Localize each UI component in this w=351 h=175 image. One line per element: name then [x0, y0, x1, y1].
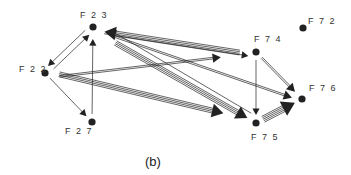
- node-dot: [88, 118, 95, 125]
- arrowhead-icon: [241, 51, 248, 58]
- node-label: F 7 5: [251, 132, 279, 142]
- arrowhead-icon: [212, 53, 221, 62]
- node-label: F 2 7: [65, 126, 93, 136]
- edge-f22-to-f23: [54, 35, 90, 69]
- node-dot: [252, 119, 259, 126]
- edge-f27-to-f23: [89, 39, 96, 114]
- arrowhead-icon: [252, 108, 259, 115]
- edge-strand: [263, 108, 286, 120]
- edge-f75-to-f76: [262, 102, 295, 123]
- node-f72: F 7 2: [299, 16, 336, 32]
- node-f74: F 7 4: [252, 34, 282, 56]
- node-f23: F 2 3: [80, 10, 108, 31]
- node-label: F 2 3: [80, 10, 108, 20]
- node-f76: F 7 6: [298, 83, 337, 103]
- node-dot: [298, 95, 305, 102]
- figure-caption: (b): [145, 154, 161, 169]
- arrowhead-icon: [286, 83, 295, 92]
- edge-strand: [92, 44, 93, 114]
- edge-strand: [262, 105, 285, 117]
- edge-strand: [113, 36, 239, 55]
- edge-strand: [262, 57, 291, 86]
- node-label: F 7 4: [254, 34, 282, 44]
- edge-f23-to-f22: [48, 30, 85, 66]
- edge-strand: [59, 74, 214, 111]
- directed-graph-diagram: F 2 3F 2 2F 2 7F 7 4F 7 2F 7 6F 7 5 (b): [0, 0, 351, 175]
- edge-f22-to-f27: [50, 78, 87, 116]
- edge-strand: [60, 59, 215, 77]
- node-label: F 7 2: [308, 16, 336, 26]
- edge-strand: [265, 110, 288, 122]
- node-label: F 7 6: [309, 83, 337, 93]
- arrowhead-icon: [283, 91, 292, 100]
- edge-strand: [54, 38, 86, 69]
- edge-strand: [104, 34, 243, 55]
- node-f22: F 2 2: [19, 64, 49, 77]
- edge-strand: [52, 30, 85, 62]
- edge-strand: [262, 106, 285, 118]
- edge-strand: [50, 78, 83, 112]
- arrowhead-icon: [89, 39, 96, 46]
- node-dot: [252, 48, 259, 55]
- arrowhead-icon: [280, 102, 295, 116]
- node-dot: [299, 24, 306, 31]
- node-dot: [89, 23, 96, 30]
- edge-strand: [59, 77, 214, 114]
- node-f75: F 7 5: [251, 119, 279, 142]
- edge-strand: [114, 31, 240, 50]
- edge-f74-to-f76: [261, 57, 295, 92]
- edge-strand: [115, 44, 239, 115]
- node-f27: F 2 7: [65, 118, 96, 136]
- edge-strand: [59, 75, 214, 112]
- edge-strand: [59, 57, 214, 75]
- edge-strand: [114, 45, 238, 116]
- edge-strand: [116, 42, 240, 113]
- node-label: F 2 2: [19, 64, 47, 74]
- edge-f74-to-f75: [252, 60, 259, 115]
- edge-strand: [60, 72, 215, 109]
- edge-strand: [264, 109, 287, 121]
- edge-strand: [117, 41, 241, 112]
- edge-strand: [261, 58, 290, 87]
